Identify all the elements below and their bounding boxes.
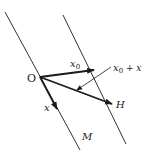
x0-label: x0	[70, 58, 80, 71]
sum-label: x0 + x	[113, 62, 141, 75]
x0-vector-arrow	[40, 70, 94, 77]
origin-label: O	[27, 72, 36, 85]
h-label: H	[115, 99, 125, 110]
h-vector-arrow	[40, 77, 112, 104]
affine-h-line	[63, 15, 126, 144]
m-label: M	[81, 131, 93, 142]
diagram-canvas: O x0 x0 + x H x M	[0, 0, 146, 153]
x-label: x	[44, 102, 50, 113]
